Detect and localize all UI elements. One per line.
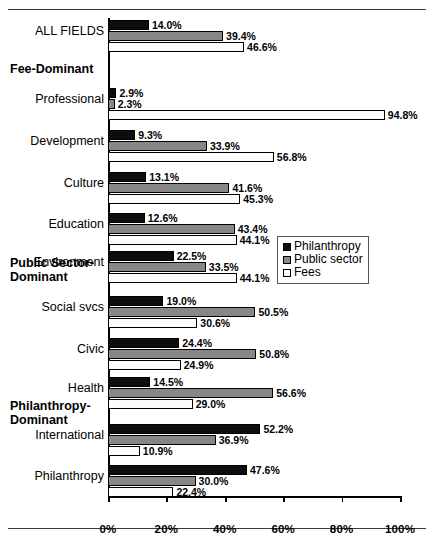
bar-value-label: 33.5% [206, 262, 239, 272]
legend-item-fees[interactable]: Fees [283, 266, 363, 279]
bar-public[interactable] [108, 349, 256, 359]
bar-value-label: 43.4% [235, 224, 268, 234]
bar-value-label: 13.1% [146, 172, 179, 182]
category-label-social-svcs: Social svcs [0, 300, 104, 314]
bar-philanthropy[interactable] [108, 172, 146, 182]
bar-philanthropy[interactable] [108, 296, 163, 306]
x-axis-tick [283, 496, 285, 502]
x-axis-tick-label: 60% [271, 523, 295, 535]
bar-group: 14.0%39.4%46.6% [108, 20, 400, 52]
bar-philanthropy[interactable] [108, 465, 247, 475]
bar-value-label: 33.9% [207, 141, 240, 151]
bar-group: 9.3%33.9%56.8% [108, 130, 400, 162]
bar-public[interactable] [108, 435, 216, 445]
bar-group: 2.9%2.3%94.8% [108, 88, 400, 120]
legend-swatch-icon [283, 243, 291, 251]
bar-value-label: 29.0% [193, 399, 226, 409]
bar-fees[interactable] [108, 360, 181, 370]
bar-public[interactable] [108, 388, 273, 398]
bar-value-label: 50.5% [255, 307, 288, 317]
category-label-professional: Professional [0, 92, 104, 106]
bar-philanthropy[interactable] [108, 88, 116, 98]
top-rule [8, 9, 426, 10]
x-axis-tick-label: 20% [155, 523, 179, 535]
bar-value-label: 19.0% [163, 296, 196, 306]
bar-public[interactable] [108, 31, 223, 41]
category-label-education: Education [0, 217, 104, 231]
x-axis-tick-label: 0% [99, 523, 116, 535]
bar-fees[interactable] [108, 235, 237, 245]
bar-philanthropy[interactable] [108, 213, 145, 223]
group-heading-public-sector-dominant: Public Sector-Dominant [10, 257, 94, 284]
bar-public[interactable] [108, 262, 206, 272]
bar-value-label: 47.6% [247, 465, 280, 475]
bar-value-label: 12.6% [145, 213, 178, 223]
bar-philanthropy[interactable] [108, 251, 174, 261]
bar-fees[interactable] [108, 152, 274, 162]
bar-philanthropy[interactable] [108, 424, 260, 434]
bar-fees[interactable] [108, 42, 244, 52]
bar-fees[interactable] [108, 399, 193, 409]
bar-value-label: 46.6% [244, 42, 277, 52]
x-axis-tick [225, 496, 227, 502]
group-heading-line: Public Sector- [10, 257, 94, 271]
bar-value-label: 2.9% [116, 88, 143, 98]
bar-group: 52.2%36.9%10.9% [108, 424, 400, 456]
bar-value-label: 10.9% [140, 446, 173, 456]
bar-public[interactable] [108, 224, 235, 234]
category-label-all-fields: ALL FIELDS [0, 24, 104, 38]
x-axis-tick-label: 100% [385, 523, 415, 535]
bar-public[interactable] [108, 99, 115, 109]
bar-value-label: 9.3% [135, 130, 162, 140]
group-heading-line: Fee-Dominant [10, 63, 93, 77]
x-axis-tick [342, 496, 344, 502]
bar-fees[interactable] [108, 318, 197, 328]
legend-swatch-icon [283, 269, 291, 277]
bar-philanthropy[interactable] [108, 338, 179, 348]
bar-value-label: 45.3% [240, 194, 273, 204]
bar-value-label: 14.5% [150, 377, 183, 387]
bar-value-label: 94.8% [385, 110, 418, 120]
bar-fees[interactable] [108, 273, 237, 283]
bar-philanthropy[interactable] [108, 377, 150, 387]
bar-group: 13.1%41.6%45.3% [108, 172, 400, 204]
x-axis-tick-label: 80% [330, 523, 354, 535]
bar-value-label: 44.1% [237, 235, 270, 245]
chart-legend: PhilanthropyPublic sectorFees [277, 236, 369, 284]
bar-value-label: 56.8% [274, 152, 307, 162]
bar-value-label: 2.3% [115, 99, 142, 109]
bar-philanthropy[interactable] [108, 20, 149, 30]
bar-fees[interactable] [108, 487, 173, 497]
bar-value-label: 24.4% [179, 338, 212, 348]
bar-value-label: 30.0% [196, 476, 229, 486]
bar-value-label: 52.2% [260, 424, 293, 434]
bar-value-label: 39.4% [223, 31, 256, 41]
category-label-civic: Civic [0, 342, 104, 356]
bar-fees[interactable] [108, 194, 240, 204]
bar-public[interactable] [108, 183, 229, 193]
group-heading-philanthropy-dominant: Philanthropy-Dominant [10, 400, 91, 427]
bar-public[interactable] [108, 476, 196, 486]
x-axis-tick [166, 496, 168, 502]
x-axis-tick [400, 496, 402, 502]
bar-fees[interactable] [108, 110, 385, 120]
x-axis-tick-label: 40% [213, 523, 237, 535]
bar-value-label: 44.1% [237, 273, 270, 283]
category-label-international: International [0, 428, 104, 442]
bar-value-label: 14.0% [149, 20, 182, 30]
bar-public[interactable] [108, 307, 255, 317]
bar-group: 24.4%50.8%24.9% [108, 338, 400, 370]
bar-public[interactable] [108, 141, 207, 151]
bar-value-label: 24.9% [181, 360, 214, 370]
category-label-development: Development [0, 134, 104, 148]
bar-group: 19.0%50.5%30.6% [108, 296, 400, 328]
x-axis-tick [108, 496, 110, 502]
bar-value-label: 22.4% [173, 487, 206, 497]
group-heading-line: Philanthropy- [10, 400, 91, 414]
bar-fees[interactable] [108, 446, 140, 456]
category-label-culture: Culture [0, 176, 104, 190]
bar-philanthropy[interactable] [108, 130, 135, 140]
category-label-health: Health [0, 381, 104, 395]
bar-value-label: 50.8% [256, 349, 289, 359]
group-heading-line: Dominant [10, 271, 94, 285]
